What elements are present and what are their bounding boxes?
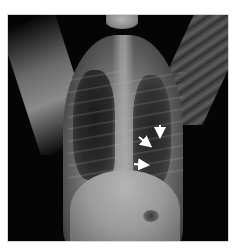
arrow-down-right-icon [139, 137, 149, 145]
annotation-arrows [8, 15, 229, 242]
chest-xray-image [7, 14, 229, 242]
arrow-right-icon [134, 164, 146, 165]
